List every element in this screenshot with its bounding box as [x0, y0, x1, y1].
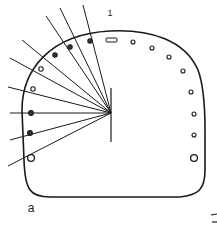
ray-line — [83, 5, 111, 113]
marker-dot — [29, 111, 34, 116]
panel-label: a — [28, 201, 35, 215]
ray-line — [46, 16, 111, 113]
top-rect-marker — [106, 38, 117, 42]
marker-dot — [28, 155, 35, 162]
marker-dot — [150, 46, 154, 50]
marker-dot — [192, 112, 196, 116]
marker-dot — [88, 39, 92, 43]
marker-dot — [131, 40, 135, 44]
marker-dot — [192, 133, 196, 137]
marker-dot — [39, 67, 43, 71]
enclosure-outline — [22, 31, 205, 197]
marker-dot — [53, 53, 57, 57]
right-electrode-markers — [131, 40, 197, 161]
marker-dot — [167, 55, 171, 59]
marker-dot — [28, 131, 33, 136]
marker-dot — [31, 87, 35, 91]
ray-line — [10, 113, 111, 140]
top-marker-label: 1 — [107, 8, 112, 18]
marker-dot — [191, 155, 198, 162]
ray-line — [60, 8, 111, 113]
diagram-canvas: 1 a — [0, 0, 217, 227]
edge-mark — [211, 214, 217, 215]
marker-dot — [189, 90, 193, 94]
marker-dot — [68, 45, 72, 49]
marker-dot — [181, 69, 185, 73]
